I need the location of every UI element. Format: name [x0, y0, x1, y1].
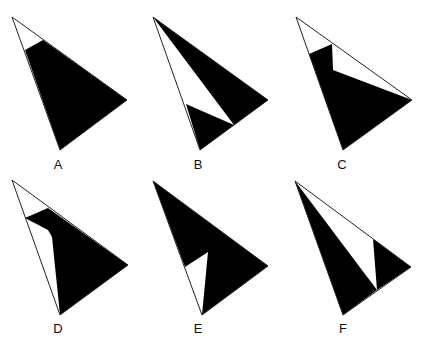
- shaded-region: [153, 181, 268, 315]
- triangle-panel-c: [296, 17, 412, 150]
- panel-label-c: C: [332, 158, 352, 172]
- shaded-region: [373, 239, 411, 290]
- triangle-panel-d: [12, 180, 128, 315]
- panel-label-a: A: [48, 158, 68, 172]
- panel-label-e: E: [188, 322, 208, 336]
- triangle-panel-f: [295, 181, 411, 315]
- triangle-panel-e: [153, 181, 268, 315]
- panel-label-f: F: [333, 322, 353, 336]
- triangle-figure: [0, 0, 425, 345]
- triangle-panel-a: [12, 17, 127, 150]
- panel-label-d: D: [48, 322, 68, 336]
- triangle-panel-b: [153, 17, 268, 150]
- panel-label-b: B: [188, 158, 208, 172]
- shaded-region: [153, 17, 268, 125]
